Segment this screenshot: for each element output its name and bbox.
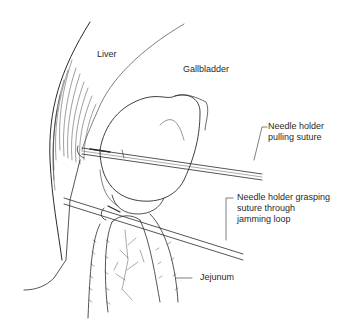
- label-line: Needle holder: [268, 121, 324, 132]
- liver-outline: [50, 22, 90, 260]
- suture: [24, 160, 80, 290]
- label-line: jamming loop: [237, 214, 330, 225]
- label-jejunum: Jejunum: [200, 272, 234, 283]
- needle-holder-grasping-instrument: [64, 198, 243, 260]
- needle-holder-pulling-instrument: [77, 146, 262, 180]
- label-gallbladder: Gallbladder: [183, 64, 229, 75]
- gallbladder-outline: [100, 95, 200, 201]
- jejunum-folds: [114, 230, 144, 300]
- gallbladder-fundus: [175, 95, 208, 130]
- liver-hatching: [53, 60, 96, 190]
- label-line: suture through: [237, 203, 330, 214]
- liver-inner-edge: [82, 24, 184, 150]
- gallbladder-neck: [112, 195, 164, 214]
- jejunum-hatching: [89, 240, 178, 304]
- label-liver: Liver: [97, 49, 117, 60]
- surgical-diagram: Liver Gallbladder Needle holder pulling …: [0, 0, 362, 333]
- leader-pulling: [254, 127, 267, 160]
- anatomy-line-art: [0, 0, 362, 333]
- label-line: Needle holder grasping: [237, 192, 330, 203]
- leader-grasping: [226, 198, 233, 240]
- label-line: pulling suture: [268, 132, 324, 143]
- label-needle-holder-grasping-suture: Needle holder grasping suture through ja…: [237, 192, 330, 225]
- label-needle-holder-pulling-suture: Needle holder pulling suture: [268, 121, 324, 143]
